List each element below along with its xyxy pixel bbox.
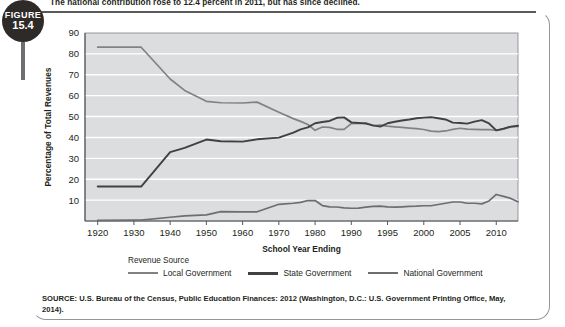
x-tick-label-2000: 2000	[413, 227, 434, 238]
x-tick-label-1950: 1950	[196, 227, 217, 238]
x-tick-label-1930: 1930	[123, 227, 144, 238]
y-tick-label-40: 40	[68, 132, 79, 143]
legend-swatch	[368, 272, 398, 274]
line-chart: 1020304050607080901920193019401950196019…	[0, 0, 565, 260]
x-tick-label-1990: 1990	[341, 227, 362, 238]
source-note: SOURCE: U.S. Bureau of the Census, Publi…	[42, 293, 522, 315]
x-tick-label-1920: 1920	[87, 227, 108, 238]
y-tick-label-20: 20	[68, 174, 79, 185]
y-tick-label-80: 80	[68, 48, 79, 59]
x-tick-label-1970: 1970	[268, 227, 289, 238]
x-axis-title: School Year Ending	[262, 244, 341, 254]
x-tick-label-1980: 1980	[305, 227, 326, 238]
y-axis-title: Percentage of Total Revenues	[43, 67, 53, 186]
legend-swatch	[248, 272, 278, 275]
legend-swatch	[128, 272, 158, 274]
legend-label: State Government	[283, 268, 351, 278]
x-tick-label-2010: 2010	[486, 227, 507, 238]
legend-item-national-government: National Government	[368, 268, 482, 278]
y-tick-label-50: 50	[68, 111, 79, 122]
x-tick-label-1960: 1960	[232, 227, 253, 238]
y-tick-label-70: 70	[68, 69, 79, 80]
legend-label: Local Government	[163, 268, 231, 278]
legend-items: Local GovernmentState GovernmentNational…	[128, 268, 528, 278]
x-tick-label-1940: 1940	[160, 227, 181, 238]
legend-item-local-government: Local Government	[128, 268, 231, 278]
y-tick-label-90: 90	[68, 27, 79, 38]
chart-legend: Revenue Source Local GovernmentState Gov…	[128, 256, 528, 278]
y-tick-label-30: 30	[68, 153, 79, 164]
figure-container: The national contribution rose to 12.4 p…	[0, 0, 565, 327]
x-tick-label-2005: 2005	[449, 227, 470, 238]
y-tick-label-10: 10	[68, 195, 79, 206]
plot-area	[85, 33, 518, 221]
y-tick-label-60: 60	[68, 90, 79, 101]
legend-label: National Government	[403, 268, 482, 278]
legend-item-state-government: State Government	[248, 268, 351, 278]
legend-title: Revenue Source	[128, 256, 528, 265]
x-tick-label-1995: 1995	[377, 227, 398, 238]
